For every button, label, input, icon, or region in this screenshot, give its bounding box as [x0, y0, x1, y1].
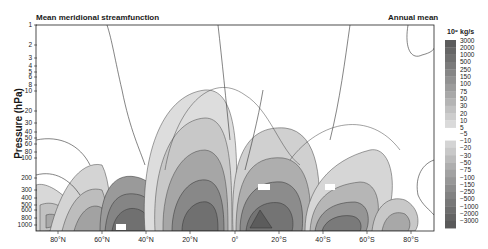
colorbar-label: −75	[460, 166, 471, 173]
colorbar-label: −150	[460, 181, 475, 188]
y-tick-label: 1000	[18, 221, 33, 228]
y-tick-label: 3	[28, 54, 32, 61]
colorbar-label: 50	[460, 95, 468, 102]
colorbar-label: 100	[460, 80, 471, 87]
colorbar-label: 150	[460, 73, 471, 80]
colorbar-label: 250	[460, 66, 471, 73]
x-tick-label: 60°S	[359, 236, 375, 243]
y-tick-label: 300	[21, 186, 32, 193]
x-tick-label: 80°S	[403, 236, 419, 243]
colorbar-label: 2000	[460, 44, 475, 51]
colorbar-label: −5	[460, 130, 468, 137]
x-axis: 80°N60°N40°N20°N0°20°S40°S60°S80°S	[50, 231, 419, 243]
y-tick-label: 100	[21, 154, 32, 161]
colorbar-label: −50	[460, 159, 471, 166]
y-tick-label: 10	[25, 87, 33, 94]
colorbar-label: 30	[460, 102, 468, 109]
colorbar-label: −500	[460, 195, 475, 202]
x-tick-label: 80°N	[50, 236, 66, 243]
contour-field	[36, 25, 434, 231]
y-axis: 1234568102030405060801002003004005006008…	[18, 21, 37, 228]
y-tick-label: 60	[25, 140, 33, 147]
colorbar-label: 10	[460, 117, 468, 124]
y-tick-label: 6	[28, 73, 32, 80]
x-tick-label: 40°N	[138, 236, 154, 243]
y-tick-label: 400	[21, 194, 32, 201]
y-tick-label: 200	[21, 174, 32, 181]
colorbar-label: −100	[460, 174, 475, 181]
colorbar-label: −250	[460, 188, 475, 195]
y-tick-label: 2	[28, 41, 32, 48]
colorbar-label: −2000	[460, 210, 479, 217]
x-tick-label: 0°	[232, 236, 239, 243]
colorbar-label: −10	[460, 137, 471, 144]
y-tick-label: 800	[21, 214, 32, 221]
colorbar-label: 500	[460, 58, 471, 65]
streamfunction-plot: 1234568102030405060801002003004005006008…	[0, 0, 488, 249]
x-tick-label: 40°S	[315, 236, 331, 243]
colorbar-label: 1000	[460, 51, 475, 58]
colorbar-label: 75	[460, 88, 468, 95]
y-tick-label: 30	[25, 119, 33, 126]
colorbar-label: 20	[460, 110, 468, 117]
x-tick-label: 20°S	[271, 236, 287, 243]
colorbar: 30002000100050025015010075503020105−5−10…	[445, 37, 479, 229]
x-tick-label: 20°N	[182, 236, 198, 243]
y-tick-label: 600	[21, 206, 32, 213]
colorbar-label: −30	[460, 152, 471, 159]
colorbar-label: −1000	[460, 203, 479, 210]
x-tick-label: 60°N	[94, 236, 110, 243]
colorbar-label: −20	[460, 144, 471, 151]
colorbar-label: −3000	[460, 217, 479, 224]
y-tick-label: 1	[28, 21, 32, 28]
y-tick-label: 20	[25, 107, 33, 114]
colorbar-label: 3000	[460, 37, 475, 44]
